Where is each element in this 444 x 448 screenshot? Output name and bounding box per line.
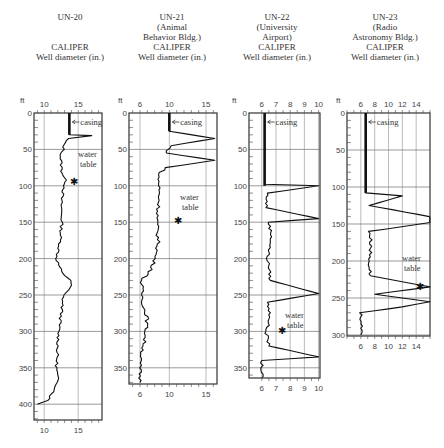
- y-tick-label: 350: [114, 364, 128, 373]
- x-tick-label-bottom: 8: [372, 342, 377, 351]
- y-tick-label: 200: [234, 255, 248, 264]
- y-tick-label: 50: [336, 146, 345, 155]
- y-tick-label: 300: [332, 331, 346, 340]
- x-tick-label-top: 10: [314, 100, 323, 109]
- y-tick-label: 50: [118, 145, 127, 154]
- x-tick-label-top: 10: [40, 100, 49, 109]
- y-tick-label: 150: [114, 218, 128, 227]
- x-tick-label-top: 9: [302, 100, 307, 109]
- x-tick-label-top: 10: [384, 100, 393, 109]
- panel-un-20: 05010015020025030035040010101515ftcasing…: [19, 96, 103, 435]
- casing-label: casing: [276, 117, 298, 127]
- x-tick-label-top: 8: [372, 100, 377, 109]
- x-tick-label-bottom: 6: [359, 342, 364, 351]
- x-tick-label-top: 10: [165, 100, 174, 109]
- y-tick-label: 150: [234, 218, 248, 227]
- water-table-label: table: [80, 159, 97, 169]
- y-tick-label: 0: [243, 109, 248, 118]
- y-tick-label: 300: [234, 327, 248, 336]
- x-tick-label-bottom: 10: [165, 390, 174, 399]
- y-tick-label: 400: [19, 400, 33, 409]
- y-tick-label: 200: [19, 255, 33, 264]
- water-table-marker-icon: ✱: [416, 281, 424, 292]
- y-tick-label: 250: [19, 291, 33, 300]
- x-tick-label-top: 15: [202, 100, 211, 109]
- x-tick-label-bottom: 15: [202, 390, 211, 399]
- water-table-label: table: [287, 320, 304, 330]
- y-tick-label: 50: [238, 145, 247, 154]
- water-table-marker-icon: ✱: [174, 215, 182, 226]
- y-tick-label: 250: [332, 294, 346, 303]
- panel-un-21: 0501001502002503003506610101515ftcasing✱…: [114, 96, 217, 399]
- y-tick-label: 0: [123, 109, 128, 118]
- water-table-marker-icon: ✱: [278, 325, 286, 336]
- x-tick-label-bottom: 9: [302, 384, 307, 393]
- panel-un-22: 050100150200250300350667788991010ftcasin…: [232, 96, 324, 393]
- x-tick-label-top: 12: [398, 100, 407, 109]
- y-tick-label: 150: [332, 220, 346, 229]
- x-tick-label-bottom: 10: [314, 384, 323, 393]
- casing-label: casing: [180, 117, 202, 127]
- y-tick-label: 300: [114, 327, 128, 336]
- x-tick-label-bottom: 10: [40, 426, 49, 435]
- water-table-label: water: [78, 149, 97, 159]
- x-tick-label-bottom: 6: [138, 390, 143, 399]
- x-tick-label-bottom: 6: [260, 384, 265, 393]
- x-tick-label-bottom: 8: [288, 384, 293, 393]
- y-tick-label: 150: [19, 218, 33, 227]
- y-tick-label: 100: [332, 183, 346, 192]
- panel-un-23: 0501001502002503006688101012121414ftcasi…: [332, 96, 430, 351]
- y-unit-label: ft: [20, 96, 25, 105]
- y-unit-label: ft: [232, 96, 237, 105]
- y-tick-label: 0: [341, 109, 346, 118]
- x-tick-label-bottom: 12: [398, 342, 407, 351]
- x-tick-label-top: 6: [138, 100, 143, 109]
- x-tick-label-bottom: 10: [384, 342, 393, 351]
- water-table-label: water: [180, 192, 199, 202]
- x-tick-label-bottom: 7: [274, 384, 279, 393]
- y-tick-label: 200: [332, 257, 346, 266]
- y-tick-label: 300: [19, 327, 33, 336]
- casing-label: casing: [80, 117, 102, 127]
- x-tick-label-top: 14: [412, 100, 421, 109]
- y-tick-label: 350: [234, 364, 248, 373]
- x-tick-label-bottom: 14: [412, 342, 421, 351]
- y-tick-label: 200: [114, 255, 128, 264]
- y-tick-label: 250: [234, 291, 248, 300]
- y-tick-label: 100: [114, 182, 128, 191]
- y-tick-label: 100: [234, 182, 248, 191]
- x-tick-label-top: 15: [74, 100, 83, 109]
- water-table-label: table: [404, 263, 421, 273]
- y-tick-label: 100: [19, 182, 33, 191]
- water-table-marker-icon: ✱: [70, 176, 78, 187]
- water-table-label: water: [402, 253, 421, 263]
- x-tick-label-top: 6: [260, 100, 265, 109]
- y-tick-label: 250: [114, 291, 128, 300]
- water-table-label: water: [285, 310, 304, 320]
- x-tick-label-top: 6: [359, 100, 364, 109]
- x-tick-label-bottom: 15: [74, 426, 83, 435]
- plot-frame: [249, 113, 320, 378]
- y-unit-label: ft: [118, 96, 123, 105]
- water-table-label: table: [182, 202, 199, 212]
- y-tick-label: 350: [19, 364, 33, 373]
- caliper-log-plots: 05010015020025030035040010101515ftcasing…: [0, 0, 444, 448]
- x-tick-label-top: 7: [274, 100, 279, 109]
- y-tick-label: 50: [23, 145, 32, 154]
- y-unit-label: ft: [336, 96, 341, 105]
- x-tick-label-top: 8: [288, 100, 293, 109]
- y-tick-label: 0: [28, 109, 33, 118]
- casing-label: casing: [377, 117, 399, 127]
